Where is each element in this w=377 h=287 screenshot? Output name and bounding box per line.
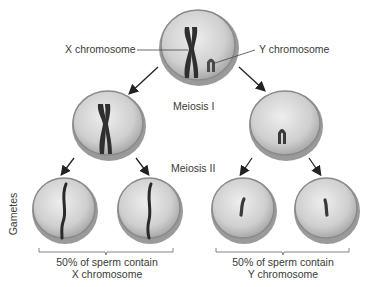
gamete-x-2 <box>117 178 183 244</box>
x-sperm-caption: 50% of sperm contain X chromosome <box>40 256 174 280</box>
y-sperm-caption-line2: Y chromosome <box>216 268 350 280</box>
x-sperm-caption-line2: X chromosome <box>40 268 174 280</box>
gametes-label: Gametes <box>7 193 19 236</box>
meiosis-1-label: Meiosis I <box>173 100 214 112</box>
x-sperm-caption-line1: 50% of sperm contain <box>40 256 174 268</box>
secondary-cell-x <box>72 91 146 161</box>
brace-y <box>216 248 349 255</box>
y-chromosome-label: Y chromosome <box>259 43 329 55</box>
secondary-cell-y <box>249 91 323 161</box>
gamete-x-1 <box>32 178 98 244</box>
gamete-y-2 <box>294 178 360 244</box>
y-sperm-caption-line1: 50% of sperm contain <box>216 256 350 268</box>
gamete-y-1 <box>211 178 277 244</box>
parent-cell <box>159 10 239 86</box>
brace-x <box>39 248 173 255</box>
meiosis-2-label: Meiosis II <box>171 162 215 174</box>
y-sperm-caption: 50% of sperm contain Y chromosome <box>216 256 350 280</box>
x-chromosome-label: X chromosome <box>65 43 136 55</box>
